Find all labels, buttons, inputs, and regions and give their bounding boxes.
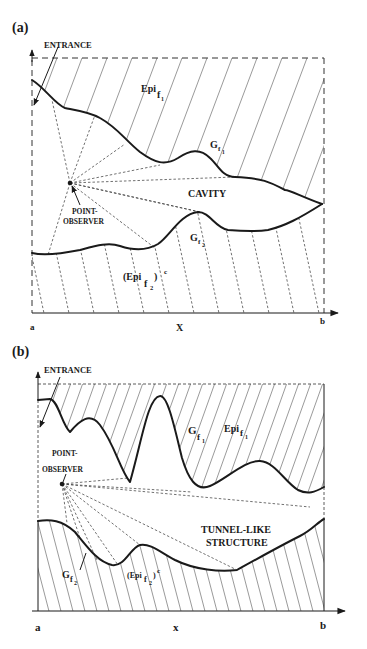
svg-text:2: 2 xyxy=(150,284,153,291)
svg-text:c: c xyxy=(157,567,160,575)
svg-text:f: f xyxy=(144,278,148,289)
svg-text:f: f xyxy=(240,428,244,438)
visibility-rays-a xyxy=(48,100,235,255)
svg-text:2: 2 xyxy=(149,580,152,586)
svg-text:f: f xyxy=(198,238,201,246)
svg-text:1: 1 xyxy=(161,96,164,102)
point-observer-marker-b xyxy=(60,482,65,487)
visibility-rays-b xyxy=(62,478,310,570)
cavity-label: CAVITY xyxy=(188,188,227,199)
graph-f1-label-a: G f 1 xyxy=(210,139,225,155)
figure-canvas: (a) xyxy=(0,0,367,649)
svg-text:1: 1 xyxy=(222,149,225,155)
entrance-label-a: ENTRANCE xyxy=(44,40,92,50)
observer-pointer-icon-a xyxy=(72,186,80,205)
svg-text:f: f xyxy=(144,575,147,584)
observer-pointer-icon-b xyxy=(63,474,66,482)
epigraph-f1-label-b: Epi f 1 xyxy=(224,423,248,440)
axis-end-label-b: b xyxy=(320,619,326,631)
svg-text:G: G xyxy=(190,232,198,243)
svg-text:G: G xyxy=(188,424,197,436)
entrance-arrow-icon-a xyxy=(34,47,58,105)
graph-f1-label-b: G f 1 xyxy=(188,424,205,444)
epigraph-f1-label-a: Epi f 1 xyxy=(141,83,164,102)
svg-text:f: f xyxy=(197,432,201,442)
complement-epigraph-f2-label-b: (Epi f 2 ) c xyxy=(127,567,160,586)
observer-label-line2-a: OBSERVER xyxy=(63,217,105,226)
svg-text:c: c xyxy=(164,268,167,276)
svg-text:1: 1 xyxy=(245,434,248,440)
svg-text:(Epi: (Epi xyxy=(123,271,142,283)
svg-text:(Epi: (Epi xyxy=(127,571,142,580)
axis-variable-label-a: X xyxy=(176,322,184,333)
svg-text:f: f xyxy=(70,575,73,584)
entrance-arrow-icon-b xyxy=(40,377,60,427)
observer-label-line1-b: POINT- xyxy=(52,449,78,458)
axis-start-label-a: a xyxy=(30,322,35,332)
svg-text:G: G xyxy=(62,569,70,580)
graph-f2-label-a: G f 2 xyxy=(190,232,205,248)
tunnel-label-line1: TUNNEL-LIKE xyxy=(201,524,271,535)
axis-start-label-b: a xyxy=(35,621,41,633)
observer-label-line1-a: POINT- xyxy=(72,207,98,216)
panel-a: (a) xyxy=(0,20,360,333)
panel-b: (b) xyxy=(10,344,360,633)
panel-a-label: (a) xyxy=(12,20,29,36)
axis-end-label-a: b xyxy=(320,316,325,326)
svg-text:2: 2 xyxy=(202,242,205,248)
svg-text:): ) xyxy=(153,571,156,580)
svg-text:): ) xyxy=(154,271,157,283)
point-observer-marker-a xyxy=(68,181,73,186)
svg-text:Epi: Epi xyxy=(141,83,156,94)
panel-b-label: (b) xyxy=(12,344,29,360)
graph-f2-curve-b xyxy=(38,519,324,571)
observer-label-line2-b: OBSERVER xyxy=(42,465,84,474)
epigraph-hatching-a xyxy=(0,50,360,210)
axis-variable-label-b: x xyxy=(173,621,179,633)
svg-text:G: G xyxy=(210,139,218,150)
tunnel-label-line2: STRUCTURE xyxy=(206,537,268,548)
svg-text:Epi: Epi xyxy=(224,423,239,434)
svg-text:1: 1 xyxy=(202,438,205,444)
svg-text:f: f xyxy=(218,145,221,153)
complement-hatching-b xyxy=(20,500,338,615)
graph-f1-curve-a xyxy=(32,80,322,204)
entrance-label-b: ENTRANCE xyxy=(44,365,92,375)
svg-text:2: 2 xyxy=(74,580,77,586)
